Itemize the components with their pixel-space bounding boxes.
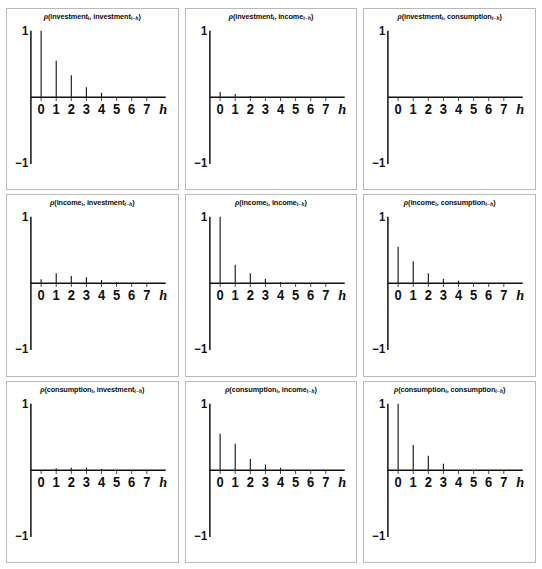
svg-text:2: 2 bbox=[246, 475, 253, 490]
svg-text:0: 0 bbox=[38, 288, 45, 303]
stem-plot: 1−101234567h bbox=[186, 382, 357, 562]
svg-text:4: 4 bbox=[455, 288, 463, 303]
correlation-panel: ρ(consumptiont, consumptiont−h)1−1012345… bbox=[363, 381, 536, 563]
svg-text:h: h bbox=[338, 101, 346, 117]
svg-text:6: 6 bbox=[485, 288, 492, 303]
svg-text:1: 1 bbox=[379, 211, 386, 223]
svg-text:−1: −1 bbox=[15, 343, 28, 355]
svg-text:−1: −1 bbox=[15, 529, 28, 541]
svg-text:2: 2 bbox=[425, 475, 432, 490]
svg-text:1: 1 bbox=[410, 102, 418, 117]
svg-text:4: 4 bbox=[277, 102, 285, 117]
svg-text:3: 3 bbox=[83, 288, 90, 303]
svg-text:4: 4 bbox=[98, 475, 106, 490]
svg-text:1: 1 bbox=[53, 288, 61, 303]
svg-text:7: 7 bbox=[143, 475, 150, 490]
svg-text:1: 1 bbox=[22, 211, 29, 223]
svg-text:h: h bbox=[517, 287, 525, 303]
stem-plot: 1−101234567h bbox=[364, 9, 535, 189]
svg-text:7: 7 bbox=[501, 288, 508, 303]
svg-text:7: 7 bbox=[143, 288, 150, 303]
correlation-panel: ρ(investmentt, consumptiont−h)1−10123456… bbox=[363, 8, 536, 190]
svg-text:1: 1 bbox=[53, 475, 61, 490]
svg-text:5: 5 bbox=[113, 102, 121, 117]
svg-text:1: 1 bbox=[379, 398, 386, 410]
svg-text:h: h bbox=[338, 474, 346, 490]
svg-text:3: 3 bbox=[261, 475, 268, 490]
svg-text:3: 3 bbox=[440, 475, 447, 490]
stem-plot: 1−101234567h bbox=[7, 9, 178, 189]
svg-text:6: 6 bbox=[128, 288, 135, 303]
svg-text:5: 5 bbox=[470, 288, 478, 303]
svg-text:7: 7 bbox=[322, 102, 329, 117]
svg-text:6: 6 bbox=[307, 475, 314, 490]
svg-text:0: 0 bbox=[395, 475, 402, 490]
svg-text:3: 3 bbox=[83, 102, 90, 117]
svg-text:−1: −1 bbox=[194, 529, 207, 541]
svg-text:1: 1 bbox=[231, 475, 239, 490]
svg-text:3: 3 bbox=[261, 288, 268, 303]
stem-plot: 1−101234567h bbox=[364, 382, 535, 562]
correlation-panel: ρ(consumptiont, incomet−h)1−101234567h bbox=[185, 381, 358, 563]
svg-text:0: 0 bbox=[38, 102, 45, 117]
svg-text:4: 4 bbox=[98, 288, 106, 303]
svg-text:7: 7 bbox=[501, 102, 508, 117]
stem-plot: 1−101234567h bbox=[7, 382, 178, 562]
svg-text:3: 3 bbox=[440, 288, 447, 303]
svg-text:7: 7 bbox=[322, 475, 329, 490]
svg-text:4: 4 bbox=[455, 475, 463, 490]
svg-text:2: 2 bbox=[246, 102, 253, 117]
svg-text:2: 2 bbox=[425, 288, 432, 303]
svg-text:1: 1 bbox=[53, 102, 61, 117]
svg-text:0: 0 bbox=[395, 102, 402, 117]
svg-text:6: 6 bbox=[128, 475, 135, 490]
svg-text:1: 1 bbox=[201, 398, 208, 410]
svg-text:5: 5 bbox=[292, 288, 300, 303]
svg-text:1: 1 bbox=[410, 288, 418, 303]
svg-text:3: 3 bbox=[83, 475, 90, 490]
svg-text:4: 4 bbox=[98, 102, 106, 117]
svg-text:1: 1 bbox=[231, 288, 239, 303]
svg-text:6: 6 bbox=[485, 475, 492, 490]
svg-text:5: 5 bbox=[292, 475, 300, 490]
correlation-panel: ρ(incomet, consumptiont−h)1−101234567h bbox=[363, 194, 536, 376]
svg-text:0: 0 bbox=[216, 288, 223, 303]
correlation-panel: ρ(investmentt, investmentt−h)1−101234567… bbox=[6, 8, 179, 190]
correlation-panel: ρ(investmentt, incomet−h)1−101234567h bbox=[185, 8, 358, 190]
svg-text:1: 1 bbox=[22, 25, 29, 37]
svg-text:−1: −1 bbox=[15, 157, 28, 169]
stem-plot: 1−101234567h bbox=[7, 195, 178, 375]
svg-text:2: 2 bbox=[68, 475, 75, 490]
svg-text:5: 5 bbox=[292, 102, 300, 117]
svg-text:4: 4 bbox=[277, 288, 285, 303]
stem-plot: 1−101234567h bbox=[364, 195, 535, 375]
svg-text:2: 2 bbox=[68, 288, 75, 303]
svg-text:5: 5 bbox=[113, 475, 121, 490]
svg-text:1: 1 bbox=[201, 211, 208, 223]
svg-text:h: h bbox=[159, 287, 167, 303]
svg-text:h: h bbox=[338, 287, 346, 303]
svg-text:0: 0 bbox=[395, 288, 402, 303]
svg-text:7: 7 bbox=[143, 102, 150, 117]
svg-text:4: 4 bbox=[455, 102, 463, 117]
svg-text:−1: −1 bbox=[194, 157, 207, 169]
stem-plot: 1−101234567h bbox=[186, 195, 357, 375]
svg-text:1: 1 bbox=[410, 475, 418, 490]
stem-plot: 1−101234567h bbox=[186, 9, 357, 189]
svg-text:h: h bbox=[517, 101, 525, 117]
svg-text:6: 6 bbox=[307, 102, 314, 117]
svg-text:−1: −1 bbox=[373, 529, 386, 541]
svg-text:1: 1 bbox=[379, 25, 386, 37]
svg-text:−1: −1 bbox=[194, 343, 207, 355]
svg-text:4: 4 bbox=[277, 475, 285, 490]
svg-text:3: 3 bbox=[440, 102, 447, 117]
svg-text:6: 6 bbox=[485, 102, 492, 117]
svg-text:2: 2 bbox=[425, 102, 432, 117]
svg-text:0: 0 bbox=[216, 102, 223, 117]
svg-text:6: 6 bbox=[128, 102, 135, 117]
svg-text:5: 5 bbox=[470, 102, 478, 117]
svg-text:1: 1 bbox=[22, 398, 29, 410]
svg-text:−1: −1 bbox=[373, 343, 386, 355]
svg-text:1: 1 bbox=[201, 25, 208, 37]
svg-text:6: 6 bbox=[307, 288, 314, 303]
